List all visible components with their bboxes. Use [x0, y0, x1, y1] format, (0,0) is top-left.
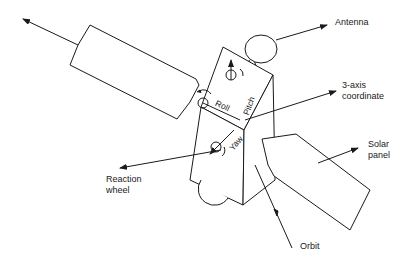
antenna-label: Antenna	[335, 17, 369, 28]
solar-panel-label: Solar panel	[368, 139, 390, 161]
right-solar-panel	[262, 134, 370, 230]
orbit-label: Orbit	[300, 241, 320, 252]
antenna-arrow	[276, 25, 327, 40]
coordinate-label: 3-axis coordinate	[342, 80, 384, 102]
left-solar-panel	[23, 19, 199, 119]
satellite-diagram	[0, 0, 419, 266]
reaction-wheel-label: Reaction wheel	[106, 174, 142, 196]
